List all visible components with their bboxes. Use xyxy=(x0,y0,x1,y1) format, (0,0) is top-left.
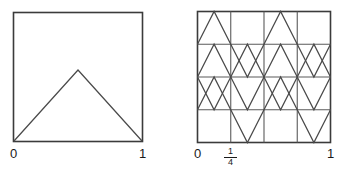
figure-root: 0 1 0 1 4 xyxy=(0,0,347,175)
tent-map-plot xyxy=(0,0,174,175)
x-tick-label-1: 1 xyxy=(139,147,146,160)
x-tick-label-0: 0 xyxy=(10,147,17,160)
x-tick-label-one-quarter: 1 4 xyxy=(224,147,237,168)
fraction-numerator: 1 xyxy=(224,147,237,156)
x-tick-label-1: 1 xyxy=(327,147,334,160)
fraction-denominator: 4 xyxy=(224,158,237,167)
panel-tent-map: 0 1 xyxy=(0,0,174,175)
x-tick-label-0: 0 xyxy=(194,147,201,160)
tent-map-curve xyxy=(14,70,142,141)
panel-second-iterate: 0 1 4 1 xyxy=(173,0,347,175)
plot-frame xyxy=(14,13,143,142)
